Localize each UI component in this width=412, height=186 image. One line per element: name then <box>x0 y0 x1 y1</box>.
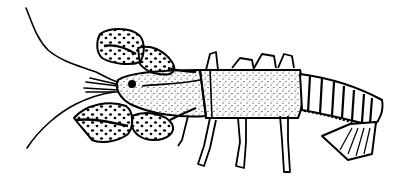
carapace <box>117 70 303 118</box>
abdomen <box>300 74 383 126</box>
tail-fan <box>322 122 376 160</box>
upper-legs <box>206 52 294 70</box>
upper-claw <box>97 29 196 75</box>
lower-legs <box>178 116 290 172</box>
crayfish-illustration <box>0 0 412 186</box>
crayfish-drawing <box>0 0 412 186</box>
